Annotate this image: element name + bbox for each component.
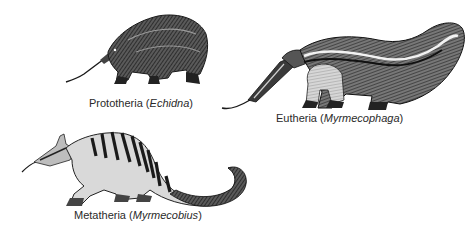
genus-name: Myrmecobius — [133, 209, 198, 221]
mammal-illustrations-figure: Prototheria (Echidna) Eutheria (Myrmecop… — [0, 0, 472, 231]
metatheria-caption: Metatheria (Myrmecobius) — [74, 209, 202, 222]
group-name: Prototheria — [89, 97, 143, 109]
echidna-illustration — [66, 15, 208, 84]
group-name: Metatheria — [74, 209, 126, 221]
anteater-illustration — [222, 23, 464, 110]
genus-name: Echidna — [150, 97, 190, 109]
group-name: Eutheria — [276, 112, 317, 124]
genus-name: Myrmecophaga — [324, 112, 400, 124]
eutheria-caption: Eutheria (Myrmecophaga) — [276, 112, 403, 125]
prototheria-caption: Prototheria (Echidna) — [89, 97, 193, 110]
numbat-illustration — [22, 132, 246, 206]
